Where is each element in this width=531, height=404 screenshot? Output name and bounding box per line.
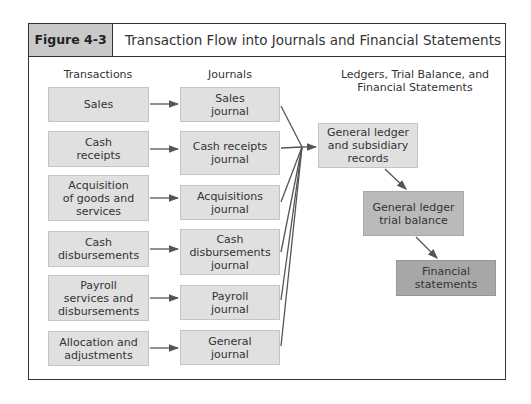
journal-box-payroll: Payroll journal <box>180 285 280 320</box>
journal-box-cash-receipts: Cash receipts journal <box>180 131 280 175</box>
journal-box-acquisitions: Acquisitions journal <box>180 185 280 220</box>
ledger-box-general-ledger: General ledger and subsidiary records <box>318 123 418 168</box>
transaction-box-payroll: Payroll services and disbursements <box>48 275 149 321</box>
journal-box-sales: Sales journal <box>180 87 280 122</box>
ledger-box-trial-balance: General ledger trial balance <box>363 191 464 236</box>
transaction-box-sales: Sales <box>48 87 149 122</box>
transaction-box-cash-receipts: Cash receipts <box>48 131 149 167</box>
transaction-box-cash-disbursements: Cash disbursements <box>48 231 149 267</box>
journal-box-cash-disbursements: Cash disbursements journal <box>180 229 280 275</box>
ledger-box-financial-statements: Financial statements <box>396 260 496 296</box>
transaction-box-allocation: Allocation and adjustments <box>48 331 149 366</box>
transaction-box-acquisition: Acquisition of goods and services <box>48 175 149 221</box>
journal-box-general: General journal <box>180 330 280 365</box>
